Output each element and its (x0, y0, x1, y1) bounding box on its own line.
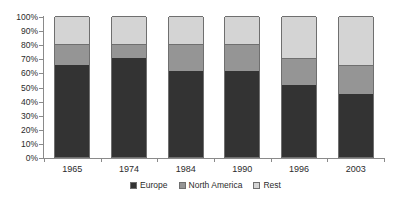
bar-stack-1984[interactable] (168, 17, 204, 158)
bar-segment-2003-europe[interactable] (339, 94, 373, 157)
x-tick-mark-3 (214, 158, 215, 162)
legend-item-rest[interactable]: Rest (253, 180, 280, 190)
bar-segment-1990-europe[interactable] (225, 71, 259, 157)
y-axis-tick-labels: 0%10%20%30%40%50%60%70%80%90%100% (0, 17, 38, 158)
bar-group-1984[interactable] (168, 17, 204, 158)
y-tick-label-50: 50% (0, 83, 38, 92)
legend-label-rest: Rest (263, 180, 280, 190)
x-tick-mark-4 (271, 158, 272, 162)
x-tick-label-1996: 1996 (269, 164, 329, 175)
bar-group-1965[interactable] (54, 17, 90, 158)
legend-swatch-europe-icon (130, 182, 137, 189)
bar-segment-1990-north-america[interactable] (225, 44, 259, 71)
x-tick-mark-5 (327, 158, 328, 162)
x-tick-mark-0 (44, 158, 45, 162)
y-tick-label-30: 30% (0, 111, 38, 120)
bar-group-1990[interactable] (224, 17, 260, 158)
y-tick-label-100: 100% (0, 13, 38, 22)
x-tick-mark-6 (384, 158, 385, 162)
bar-stack-1965[interactable] (54, 17, 90, 158)
bar-segment-1996-rest[interactable] (282, 16, 316, 58)
bar-group-2003[interactable] (338, 17, 374, 158)
y-tick-label-20: 20% (0, 125, 38, 134)
bar-segment-1984-north-america[interactable] (169, 44, 203, 71)
legend-swatch-rest-icon (253, 182, 260, 189)
bar-segment-1984-rest[interactable] (169, 16, 203, 44)
legend-label-north-america: North America (189, 180, 243, 190)
bar-stack-1990[interactable] (224, 17, 260, 158)
legend-item-north-america[interactable]: North America (179, 180, 243, 190)
bar-segment-1965-europe[interactable] (55, 65, 89, 157)
bar-group-1974[interactable] (111, 17, 147, 158)
legend-label-europe: Europe (140, 180, 167, 190)
stacked-bar-chart: 0%10%20%30%40%50%60%70%80%90%100% 196519… (0, 0, 411, 199)
bar-stack-2003[interactable] (338, 17, 374, 158)
bar-stack-1974[interactable] (111, 17, 147, 158)
x-tick-mark-1 (101, 158, 102, 162)
bar-segment-1974-europe[interactable] (112, 58, 146, 157)
bar-segment-1990-rest[interactable] (225, 16, 259, 44)
y-tick-label-40: 40% (0, 97, 38, 106)
y-tick-label-60: 60% (0, 69, 38, 78)
legend-swatch-north-america-icon (179, 182, 186, 189)
bar-stack-1996[interactable] (281, 17, 317, 158)
x-axis-ticks: 196519741984199019962003 (44, 158, 384, 180)
bar-segment-1965-rest[interactable] (55, 16, 89, 44)
x-tick-label-1984: 1984 (156, 164, 216, 175)
bar-segment-1996-north-america[interactable] (282, 58, 316, 85)
bar-group-1996[interactable] (281, 17, 317, 158)
legend-item-europe[interactable]: Europe (130, 180, 167, 190)
plot-area (44, 17, 384, 158)
x-tick-label-2003: 2003 (326, 164, 386, 175)
bar-segment-1996-europe[interactable] (282, 85, 316, 157)
y-tick-label-10: 10% (0, 139, 38, 148)
bar-segment-1974-north-america[interactable] (112, 44, 146, 58)
x-tick-label-1990: 1990 (212, 164, 272, 175)
bar-segment-2003-north-america[interactable] (339, 65, 373, 93)
bar-segment-1965-north-america[interactable] (55, 44, 89, 65)
y-tick-label-80: 80% (0, 41, 38, 50)
chart-legend: EuropeNorth AmericaRest (0, 180, 411, 190)
y-tick-label-0: 0% (0, 154, 38, 163)
bar-segment-2003-rest[interactable] (339, 16, 373, 65)
bar-segment-1974-rest[interactable] (112, 16, 146, 44)
y-tick-label-90: 90% (0, 27, 38, 36)
y-tick-label-70: 70% (0, 55, 38, 64)
x-tick-mark-2 (157, 158, 158, 162)
x-tick-label-1974: 1974 (99, 164, 159, 175)
x-tick-label-1965: 1965 (42, 164, 102, 175)
bar-segment-1984-europe[interactable] (169, 71, 203, 157)
